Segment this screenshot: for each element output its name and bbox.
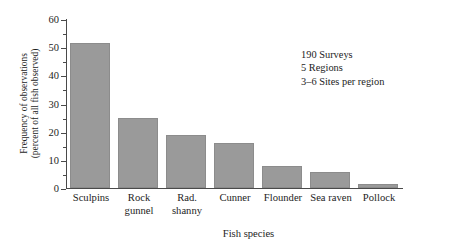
- plot-area: 0102030405060: [66, 19, 396, 189]
- bar-rad-shanny: [166, 135, 206, 188]
- y-tick-minor: [63, 175, 66, 176]
- y-tick-minor: [63, 90, 66, 91]
- bar-chart-figure: Frequency of observations (percent of al…: [0, 0, 457, 252]
- annotation-line-sites: 3–6 Sites per region: [301, 75, 384, 88]
- survey-annotation: 190 Surveys 5 Regions 3–6 Sites per regi…: [301, 48, 384, 88]
- bar-slot: [355, 19, 401, 188]
- x-axis-tick-labels: SculpinsRockgunnelRad.shannyCunnerFlound…: [67, 192, 403, 232]
- y-tick-major: [61, 189, 66, 190]
- bar-rock-gunnel: [118, 118, 158, 188]
- y-tick-major: [61, 20, 66, 21]
- y-axis-title: Frequency of observations (percent of al…: [14, 14, 48, 192]
- x-axis-line: [66, 188, 403, 189]
- y-tick-minor: [63, 147, 66, 148]
- y-tick-label: 60: [49, 15, 60, 26]
- bar-slot: [307, 19, 353, 188]
- bar-sculpins: [70, 43, 110, 188]
- y-tick-label: 50: [49, 43, 60, 54]
- y-tick-label: 10: [49, 156, 60, 167]
- y-tick-minor: [63, 62, 66, 63]
- bar-slot: [211, 19, 257, 188]
- x-axis-title: Fish species: [0, 228, 457, 239]
- bar-series: [67, 19, 403, 188]
- bar-sea-raven: [310, 172, 350, 188]
- y-tick-major: [61, 48, 66, 49]
- y-tick-minor: [63, 119, 66, 120]
- bar-slot: [67, 19, 113, 188]
- y-tick-major: [61, 105, 66, 106]
- annotation-line-surveys: 190 Surveys: [301, 48, 384, 61]
- y-tick-label: 20: [49, 127, 60, 138]
- bar-pollock: [358, 184, 398, 189]
- annotation-line-regions: 5 Regions: [301, 61, 384, 74]
- y-tick-label: 40: [49, 71, 60, 82]
- bar-flounder: [262, 166, 302, 188]
- bar-slot: [115, 19, 161, 188]
- y-tick-label: 0: [54, 184, 59, 195]
- bar-slot: [259, 19, 305, 188]
- y-tick-major: [61, 133, 66, 134]
- x-tick-label-line: Pollock: [349, 192, 409, 205]
- x-tick-label-line: shanny: [157, 205, 217, 218]
- y-axis-title-line-1: Frequency of observations: [20, 48, 31, 158]
- y-axis-title-line-2: (percent of all fish observed): [31, 48, 42, 158]
- bar-slot: [163, 19, 209, 188]
- bar-cunner: [214, 143, 254, 188]
- y-tick-major: [61, 76, 66, 77]
- y-tick-minor: [63, 34, 66, 35]
- y-tick-major: [61, 161, 66, 162]
- y-tick-label: 30: [49, 99, 60, 110]
- x-tick-label: Pollock: [349, 192, 409, 205]
